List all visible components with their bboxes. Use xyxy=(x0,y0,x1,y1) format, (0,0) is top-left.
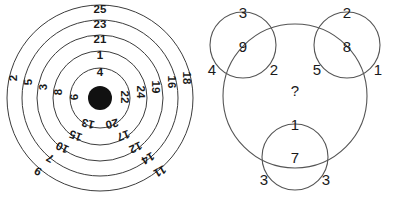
three-circles-diagram: 3 9 4 2 2 8 5 1 1 7 3 3 ? xyxy=(195,0,395,203)
top-left-left-value: 4 xyxy=(208,61,216,78)
top-left-center-value: 9 xyxy=(239,38,247,55)
top-right-center-value: 8 xyxy=(343,38,351,55)
ring-4-right-label: 24 xyxy=(135,86,147,99)
ring-2-left-label: 5 xyxy=(22,78,34,85)
ring-4-bottom-left-label: 15 xyxy=(67,128,84,144)
ring-5-left-label: 6 xyxy=(68,94,80,100)
ring-1-right-label: 18 xyxy=(181,72,193,85)
top-right-top-value: 2 xyxy=(343,4,351,21)
bottom-right-value: 3 xyxy=(322,171,330,188)
top-right-left-value: 5 xyxy=(313,61,321,78)
ring-5-right-label: 22 xyxy=(119,91,131,104)
ring-1-top-label: 25 xyxy=(94,3,107,15)
top-left-right-value: 2 xyxy=(270,61,278,78)
top-left-top-value: 3 xyxy=(239,4,247,21)
bottom-top-value: 1 xyxy=(291,116,299,133)
ring-4-top-label: 1 xyxy=(97,49,104,61)
concentric-target-diagram: 25 23 21 1 4 2 5 3 8 6 18 16 19 24 22 9 … xyxy=(0,0,200,203)
ring-2-top-label: 23 xyxy=(94,18,107,30)
puzzle-figure: 25 23 21 1 4 2 5 3 8 6 18 16 19 24 22 9 … xyxy=(0,0,395,203)
ring-3-left-label: 3 xyxy=(37,84,49,90)
top-right-right-value: 1 xyxy=(374,61,382,78)
ring-5-bottom-right-label: 20 xyxy=(104,117,119,132)
bullseye-dot xyxy=(88,86,112,110)
ring-5-bottom-left-label: 13 xyxy=(80,117,95,132)
ring-1-left-label: 2 xyxy=(7,75,19,81)
ring-1-bottom-right-label: 11 xyxy=(151,163,168,180)
ring-1-bottom-left-label: 9 xyxy=(32,165,44,179)
target-svg: 25 23 21 1 4 2 5 3 8 6 18 16 19 24 22 9 … xyxy=(0,0,200,203)
unknown-question-mark: ? xyxy=(291,82,299,99)
ring-2-bottom-right-label: 14 xyxy=(139,150,157,167)
ring-4-left-label: 8 xyxy=(52,88,64,95)
bottom-center-value: 7 xyxy=(291,149,299,166)
circles-svg: 3 9 4 2 2 8 5 1 1 7 3 3 ? xyxy=(195,0,395,203)
ring-5-top-label: 4 xyxy=(97,66,104,78)
ring-3-bottom-left-label: 10 xyxy=(54,139,71,155)
bottom-left-value: 3 xyxy=(260,171,268,188)
ring-3-top-label: 21 xyxy=(94,33,107,45)
ring-2-right-label: 16 xyxy=(166,76,178,89)
ring-3-right-label: 19 xyxy=(150,81,162,94)
